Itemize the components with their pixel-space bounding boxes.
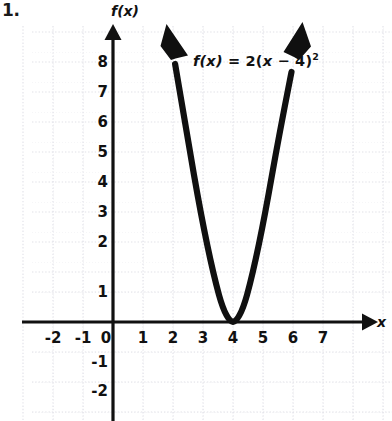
coordinate-plane: f(x) x 8 7 6 5 4 3 2 1 -1 -2 -2 -1 0 1 2… (0, 0, 392, 421)
x-tick-5: 5 (258, 331, 268, 346)
x-tick-7: 7 (318, 331, 328, 346)
y-tick-neg1: -1 (91, 355, 108, 370)
x-tick-2: 2 (168, 331, 178, 346)
x-axis-label: x (377, 315, 386, 329)
x-tick-4: 4 (228, 331, 238, 346)
y-tick-neg2: -2 (91, 384, 108, 399)
y-tick-2: 2 (98, 235, 108, 250)
equation-minus-four: − 4) (272, 53, 312, 69)
equation-variable: x (263, 53, 273, 69)
x-tick-neg2: -2 (45, 331, 62, 346)
y-tick-7: 7 (98, 85, 108, 100)
y-tick-3: 3 (98, 205, 108, 220)
equation-annotation: f(x) = 2(x − 4)2 (193, 54, 319, 69)
y-tick-6: 6 (98, 115, 108, 130)
equation-equals: = 2( (223, 53, 263, 69)
x-tick-3: 3 (198, 331, 208, 346)
y-tick-5: 5 (98, 145, 108, 160)
equation-fx: f(x) (193, 53, 223, 69)
x-tick-neg1: -1 (75, 331, 92, 346)
y-tick-8: 8 (98, 55, 108, 70)
equation-exponent: 2 (312, 51, 319, 62)
x-tick-6: 6 (288, 331, 298, 346)
y-tick-1: 1 (98, 285, 108, 300)
graph-figure: 1. (0, 0, 392, 421)
x-tick-0: 0 (101, 331, 111, 346)
curve-arrowhead-left (161, 24, 189, 60)
y-axis-label: f(x) (111, 4, 139, 18)
x-tick-1: 1 (138, 331, 148, 346)
parabola-path (175, 64, 291, 322)
y-tick-4: 4 (98, 175, 108, 190)
